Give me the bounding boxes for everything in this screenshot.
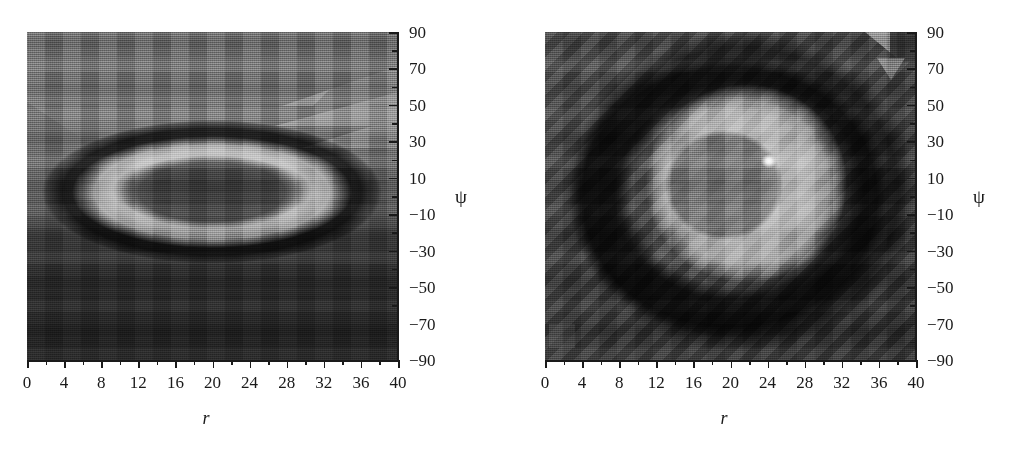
right-y-minor-tick [910,342,916,344]
right-x-minor-tick [638,360,640,365]
right-y-major-tick [907,324,916,326]
right-x-tick-label: 16 [685,374,702,391]
left-x-tick-label: 12 [130,374,147,391]
left-y-minor-tick [392,305,398,307]
left-x-major-tick [213,360,215,368]
left-y-minor-tick [392,196,398,198]
right-x-axis-title: r [720,408,727,429]
left-x-major-tick [138,360,140,368]
left-y-tick-label: −70 [409,315,436,332]
right-y-minor-tick [910,123,916,125]
left-y-tick-label: 10 [409,169,426,186]
left-y-major-tick [389,178,398,180]
right-y-major-tick [907,360,916,362]
left-y-minor-tick [392,123,398,125]
left-lower-shadow [27,32,398,360]
right-y-major-tick [907,105,916,107]
left-x-major-tick [398,360,400,368]
right-panel: 0481216202428323640 9070503010−10−30−50−… [513,0,1026,458]
right-y-major-tick [907,32,916,34]
right-y-tick-label: 50 [927,96,944,113]
right-y-tick-label: 70 [927,60,944,77]
left-x-tick-label: 4 [60,374,69,391]
left-y-major-tick [389,141,398,143]
left-plot-area [27,32,398,360]
left-y-minor-tick [392,342,398,344]
right-plot-area [545,32,916,360]
right-x-tick-label: 40 [908,374,925,391]
right-x-tick-label: 8 [615,374,624,391]
left-x-major-tick [101,360,103,368]
right-x-tick-label: 32 [833,374,850,391]
right-x-minor-tick [564,360,566,365]
left-y-tick-label: −90 [409,352,436,369]
left-y-major-tick [389,105,398,107]
right-y-major-tick [907,178,916,180]
left-x-minor-tick [194,360,196,365]
left-y-minor-tick [392,50,398,52]
right-inner-dark-disc [665,130,783,240]
left-x-tick-label: 8 [97,374,106,391]
right-x-tick-label: 20 [722,374,739,391]
left-x-minor-tick [379,360,381,365]
right-x-major-tick [656,360,658,368]
right-y-tick-label: 90 [927,24,944,41]
left-x-minor-tick [268,360,270,365]
left-x-minor-tick [231,360,233,365]
right-y-minor-tick [910,196,916,198]
right-x-minor-tick [897,360,899,365]
right-y-tick-label: 10 [927,169,944,186]
left-y-tick-label: −30 [409,242,436,259]
right-y-tick-label: −70 [927,315,954,332]
right-y-minor-tick [910,160,916,162]
right-x-major-tick [805,360,807,368]
left-y-axis-title: ψ [455,186,467,208]
right-x-major-tick [693,360,695,368]
left-y-major-tick [389,214,398,216]
left-x-minor-tick [120,360,122,365]
right-y-tick-label: −50 [927,279,954,296]
left-y-major-tick [389,32,398,34]
right-y-minor-tick [910,87,916,89]
left-y-minor-tick [392,269,398,271]
right-y-tick-label: −10 [927,206,954,223]
right-y-tick-label: 30 [927,133,944,150]
right-x-minor-tick [601,360,603,365]
right-x-minor-tick [675,360,677,365]
right-x-major-tick [619,360,621,368]
right-y-axis-title: ψ [973,186,985,208]
left-x-tick-label: 32 [315,374,332,391]
left-y-tick-label: 50 [409,96,426,113]
left-x-major-tick [250,360,252,368]
right-x-tick-label: 4 [578,374,587,391]
right-x-tick-label: 28 [796,374,813,391]
left-y-tick-label: 90 [409,24,426,41]
right-y-tick-label: −30 [927,242,954,259]
left-y-major-tick [389,324,398,326]
left-y-tick-label: −50 [409,279,436,296]
left-x-major-tick [64,360,66,368]
left-x-tick-label: 40 [390,374,407,391]
left-x-axis-title: r [202,408,209,429]
right-x-minor-tick [786,360,788,365]
right-x-minor-tick [823,360,825,365]
right-y-major-tick [907,287,916,289]
right-y-minor-tick [910,305,916,307]
left-x-minor-tick [46,360,48,365]
left-x-minor-tick [83,360,85,365]
left-y-minor-tick [392,87,398,89]
right-y-major-tick [907,68,916,70]
left-x-major-tick [324,360,326,368]
left-x-major-tick [175,360,177,368]
right-y-tick-label: −90 [927,352,954,369]
right-x-tick-label: 36 [870,374,887,391]
right-y-minor-tick [910,232,916,234]
left-x-minor-tick [342,360,344,365]
two-panel-figure: 0481216202428323640 9070503010−10−30−50−… [0,0,1026,458]
left-y-minor-tick [392,232,398,234]
right-y-minor-tick [910,50,916,52]
left-x-minor-tick [305,360,307,365]
left-y-minor-tick [392,160,398,162]
right-y-major-tick [907,141,916,143]
right-x-major-tick [842,360,844,368]
